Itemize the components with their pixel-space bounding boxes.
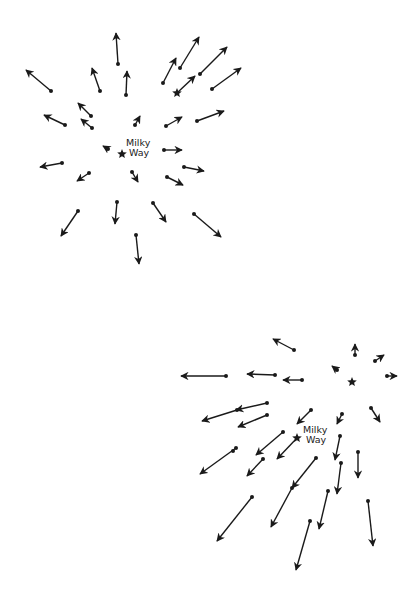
velocity-arrow — [371, 408, 380, 422]
velocity-arrow — [40, 163, 62, 167]
galaxy-dot — [224, 374, 228, 378]
bottom-label-line2: Way — [303, 435, 327, 445]
velocity-arrow — [184, 167, 204, 171]
velocity-arrow — [81, 119, 92, 128]
galaxy-dot — [290, 486, 294, 490]
galaxy-dot — [130, 170, 134, 174]
galaxy-dot — [339, 461, 343, 465]
galaxy-dot — [210, 87, 214, 91]
velocity-arrow — [277, 438, 297, 459]
top-milky-way-label: Milky Way — [126, 138, 150, 158]
galaxy-dot — [292, 348, 296, 352]
velocity-arrow — [217, 497, 252, 541]
galaxy-dot — [356, 450, 360, 454]
top-label-line2: Way — [126, 148, 150, 158]
galaxy-dot — [281, 430, 285, 434]
galaxy-dot — [366, 499, 370, 503]
galaxy-dot — [353, 353, 357, 357]
velocity-arrow — [319, 491, 328, 529]
galaxy-dot — [124, 93, 128, 97]
galaxy-dot — [234, 446, 238, 450]
velocity-arrow — [202, 410, 237, 421]
expansion-diagram: Milky Way Milky Way — [0, 0, 418, 597]
galaxy-dot — [192, 212, 196, 216]
galaxy-dot — [308, 519, 312, 523]
galaxy-dot — [309, 408, 313, 412]
galaxy-dot — [314, 456, 318, 460]
galaxy-dot — [151, 201, 155, 205]
velocity-arrow — [116, 33, 118, 64]
galaxy-dot — [89, 114, 93, 118]
galaxy-dot — [231, 449, 235, 453]
velocity-arrow — [180, 37, 199, 68]
galaxy-dot — [265, 413, 269, 417]
galaxy-dot — [162, 148, 166, 152]
velocity-arrow — [297, 410, 311, 424]
velocity-arrow — [296, 521, 310, 570]
galaxy-dot — [60, 161, 64, 165]
galaxy-dot — [235, 408, 239, 412]
galaxy-dot — [116, 62, 120, 66]
velocity-arrow — [197, 111, 224, 121]
galaxy-dot — [261, 457, 265, 461]
reference-galaxy-star-icon — [347, 377, 357, 386]
velocity-arrow — [368, 501, 373, 546]
galaxy-dot — [115, 200, 119, 204]
velocity-arrow — [292, 458, 316, 488]
galaxy-dot — [300, 378, 304, 382]
velocity-arrow — [44, 115, 65, 125]
galaxy-dot — [134, 233, 138, 237]
galaxy-dot — [250, 495, 254, 499]
galaxy-dot — [273, 373, 277, 377]
velocity-arrow — [77, 173, 89, 181]
galaxy-dot — [195, 119, 199, 123]
galaxy-dot — [369, 406, 373, 410]
galaxy-dot — [164, 124, 168, 128]
galaxy-dot — [98, 89, 102, 93]
velocity-arrow — [126, 71, 127, 95]
velocity-arrow — [136, 235, 139, 264]
velocity-arrow — [163, 58, 176, 83]
velocity-arrow — [247, 459, 263, 476]
bottom-milky-way-label: Milky Way — [303, 425, 327, 445]
velocity-arrow — [177, 76, 195, 93]
galaxy-dot — [265, 401, 269, 405]
galaxy-dot — [373, 359, 377, 363]
velocity-arrow — [335, 436, 340, 460]
galaxy-dot — [165, 175, 169, 179]
galaxy-dot — [338, 434, 342, 438]
velocity-arrow — [247, 374, 275, 375]
velocity-arrow — [271, 488, 292, 527]
velocity-arrow — [273, 339, 294, 350]
velocity-arrow — [194, 214, 221, 237]
velocity-arrow — [238, 415, 267, 427]
galaxy-dot — [63, 123, 67, 127]
galaxy-dot — [76, 209, 80, 213]
galaxy-dot — [133, 123, 137, 127]
velocity-arrow — [200, 448, 236, 474]
galaxy-dot — [340, 412, 344, 416]
velocity-arrow — [78, 103, 91, 116]
velocity-arrow — [115, 202, 117, 224]
velocity-arrow — [236, 403, 267, 410]
galaxy-dot — [178, 66, 182, 70]
galaxy-dot — [385, 374, 389, 378]
bottom-panel-other-galaxy-view — [181, 339, 397, 570]
velocity-arrow — [337, 463, 341, 494]
galaxy-dot — [335, 368, 339, 372]
velocity-arrow — [61, 211, 78, 236]
galaxy-dot — [106, 147, 110, 151]
galaxy-dot — [182, 165, 186, 169]
galaxy-dot — [90, 126, 94, 130]
velocity-arrow — [92, 68, 100, 91]
galaxy-dot — [49, 89, 53, 93]
velocity-arrow — [200, 47, 227, 74]
galaxy-dot — [87, 171, 91, 175]
velocity-arrow — [26, 70, 51, 91]
diagram-canvas — [0, 0, 418, 597]
velocity-arrow — [212, 68, 241, 89]
galaxy-dot — [198, 72, 202, 76]
galaxy-dot — [326, 489, 330, 493]
velocity-arrow — [166, 117, 182, 126]
velocity-arrow — [167, 177, 183, 185]
